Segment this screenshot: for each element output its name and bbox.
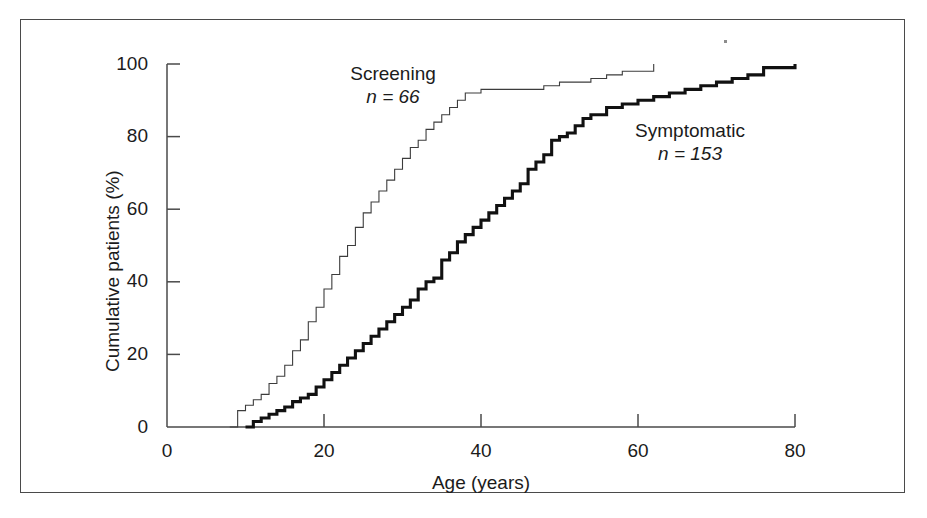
annotation-symptomatic-label: Symptomatic bbox=[635, 120, 745, 141]
annotation-screening-n-text: n = 66 bbox=[366, 86, 419, 107]
ytick-label-100: 100 bbox=[96, 53, 148, 75]
annotation-screening-label: Screening bbox=[350, 63, 436, 84]
annotation-screening-n: n = 66 bbox=[303, 85, 483, 108]
xtick-label-60: 60 bbox=[614, 440, 662, 462]
xtick-label-0: 0 bbox=[143, 440, 191, 462]
xtick-label-80: 80 bbox=[771, 440, 819, 462]
figure-root: 100 80 60 40 20 0 0 20 40 60 80 Cumulati… bbox=[0, 0, 927, 518]
y-axis-title: Cumulative patients (%) bbox=[102, 170, 124, 372]
ytick-label-0: 0 bbox=[96, 416, 148, 438]
ytick-label-80: 80 bbox=[96, 125, 148, 147]
scan-speck bbox=[724, 40, 727, 43]
xtick-label-20: 20 bbox=[300, 440, 348, 462]
annotation-screening: Screening n = 66 bbox=[303, 62, 483, 108]
annotation-symptomatic-n: n = 153 bbox=[600, 142, 780, 165]
annotation-symptomatic-n-text: n = 153 bbox=[658, 143, 722, 164]
annotation-symptomatic: Symptomatic n = 153 bbox=[600, 119, 780, 165]
x-axis-title: Age (years) bbox=[381, 472, 581, 494]
xtick-label-40: 40 bbox=[457, 440, 505, 462]
